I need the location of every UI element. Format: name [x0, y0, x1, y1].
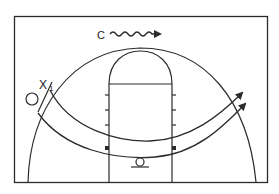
- three-point-arc: [28, 48, 256, 182]
- basket-icon: [131, 158, 149, 167]
- court-diagram: C X 1: [0, 0, 279, 194]
- defender-label: X: [39, 78, 47, 92]
- free-throw-circle: [109, 51, 172, 84]
- left-block-marker: [105, 146, 109, 150]
- inner-cut-path: [38, 104, 245, 157]
- offensive-player-icon: [26, 93, 38, 105]
- key-lane: [109, 51, 172, 182]
- defender-subscript: 1: [49, 84, 54, 93]
- right-block-marker: [172, 146, 176, 150]
- lane-hash-marks: [105, 95, 176, 125]
- coach-label: C: [97, 29, 105, 41]
- dribble-path: [110, 32, 160, 36]
